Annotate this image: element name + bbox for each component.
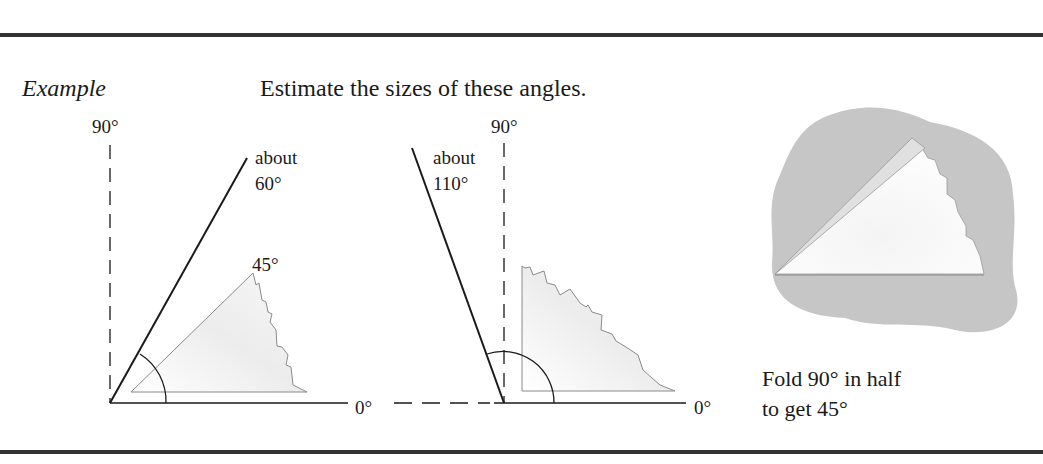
folding-illustration: Fold 90° in half to get 45°: [762, 107, 1017, 421]
axis-90-label: 90°: [92, 116, 119, 137]
angle-estimate-label-line1: about: [433, 147, 476, 168]
caption-line1: Fold 90° in half: [762, 366, 902, 391]
instruction-text: Estimate the sizes of these angles.: [260, 75, 587, 101]
angle-estimation-figure: Example Estimate the sizes of these angl…: [0, 0, 1043, 464]
45-degree-paper-reference: [131, 273, 307, 392]
example-label: Example: [21, 75, 106, 101]
axis-0-label: 0°: [355, 397, 372, 418]
diagram-60-degrees: 90° 0° 45° about 60°: [92, 116, 372, 418]
angle-estimate-label-line2: 60°: [255, 173, 282, 194]
top-rule: [0, 33, 1043, 37]
axis-90-label: 90°: [491, 116, 518, 137]
angle-estimate-label-line2: 110°: [433, 173, 468, 194]
caption-line2: to get 45°: [762, 396, 848, 421]
angle-estimate-label-line1: about: [255, 147, 298, 168]
45-degree-label: 45°: [252, 254, 279, 275]
bottom-rule: [0, 450, 1043, 454]
axis-0-label: 0°: [694, 397, 711, 418]
diagram-110-degrees: 90° 0° about 110°: [394, 116, 711, 418]
